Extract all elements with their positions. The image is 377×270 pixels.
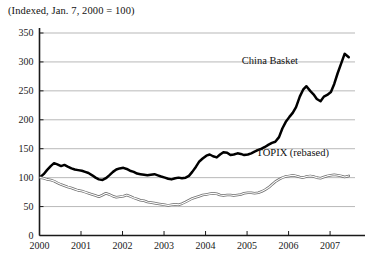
x-tick-label: 2007: [320, 240, 340, 251]
series-line-topix-outline: [40, 175, 348, 206]
x-tick-label: 2004: [196, 240, 216, 251]
y-tick-label: 50: [24, 201, 34, 212]
line-chart-plot: 050100150200250300350 200020012002200320…: [0, 0, 377, 270]
chart-container: (Indexed, Jan. 7, 2000 = 100) 0501001502…: [0, 0, 377, 270]
x-tick-label: 2002: [113, 240, 133, 251]
x-tick-label: 2005: [237, 240, 257, 251]
y-tick-labels-group: 050100150200250300350: [19, 27, 34, 241]
y-tick-label: 350: [19, 27, 34, 38]
gridlines-group: [40, 33, 356, 207]
series-line-topix-core: [40, 175, 348, 206]
series-group: [40, 54, 348, 206]
series-annotation-label: China Basket: [242, 55, 298, 66]
y-tick-label: 300: [19, 56, 34, 67]
axes-group: [40, 28, 366, 236]
y-tick-label: 200: [19, 114, 34, 125]
series-line-china-basket: [40, 54, 348, 180]
x-tick-labels-group: 20002001200220032004200520062007: [30, 240, 341, 251]
y-tick-label: 150: [19, 143, 34, 154]
x-tick-label: 2003: [154, 240, 174, 251]
annotations-group: China BasketTOPIX (rebased): [242, 55, 330, 160]
x-tick-label: 2006: [279, 240, 299, 251]
x-tick-label: 2001: [71, 240, 91, 251]
x-tick-label: 2000: [30, 240, 50, 251]
y-tick-label: 100: [19, 172, 34, 183]
y-tick-label: 250: [19, 85, 34, 96]
series-annotation-label: TOPIX (rebased): [257, 147, 330, 159]
